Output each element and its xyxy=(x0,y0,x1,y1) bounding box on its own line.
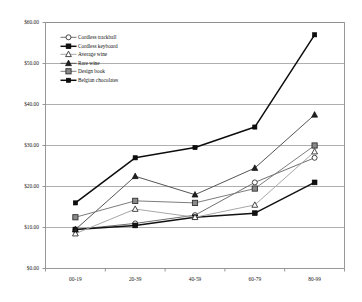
y-axis-tick-label: $10.00 xyxy=(5,224,39,230)
x-axis-tick-label: 40-59 xyxy=(175,276,215,282)
x-axis-tick-label: 20-39 xyxy=(115,276,155,282)
legend-item[interactable]: Cordless trackball xyxy=(60,33,148,42)
y-axis-tick-label: $0.00 xyxy=(5,265,39,271)
x-axis-tick-label: 00-19 xyxy=(55,276,95,282)
legend-item[interactable]: Average wine xyxy=(60,50,148,59)
legend-marker-icon xyxy=(60,42,77,51)
y-axis-tick-label: $60.00 xyxy=(5,19,39,25)
legend-marker-icon xyxy=(60,59,77,68)
legend-label: Rare wine xyxy=(77,59,100,68)
legend-label: Design book xyxy=(77,67,105,76)
chart-legend: Cordless trackballCordless keyboardAvera… xyxy=(60,33,148,85)
legend-label: Cordless trackball xyxy=(77,33,116,42)
legend-item[interactable]: Design book xyxy=(60,67,148,76)
chart-plot-area xyxy=(0,0,362,302)
legend-marker-icon xyxy=(60,33,77,42)
y-axis-tick-label: $40.00 xyxy=(5,101,39,107)
line-chart: $0.00$10.00$20.00$30.00$40.00$50.00$60.0… xyxy=(0,0,362,302)
x-axis-ticks xyxy=(46,269,345,272)
series-cordless-keyboard xyxy=(73,180,317,232)
x-axis-tick-label: 60-79 xyxy=(235,276,275,282)
legend-label: Belgian chocolates xyxy=(77,76,118,85)
legend-item[interactable]: Cordless keyboard xyxy=(60,42,148,51)
legend-item[interactable]: Belgian chocolates xyxy=(60,76,148,85)
legend-marker-icon xyxy=(60,50,77,59)
legend-item[interactable]: Rare wine xyxy=(60,59,148,68)
legend-label: Average wine xyxy=(77,50,107,59)
y-axis-tick-label: $20.00 xyxy=(5,183,39,189)
legend-label: Cordless keyboard xyxy=(77,42,118,51)
y-axis-tick-label: $50.00 xyxy=(5,60,39,66)
legend-marker-icon xyxy=(60,67,77,76)
y-axis-tick-label: $30.00 xyxy=(5,142,39,148)
legend-marker-icon xyxy=(60,76,77,85)
x-axis-tick-label: 80-99 xyxy=(295,276,335,282)
